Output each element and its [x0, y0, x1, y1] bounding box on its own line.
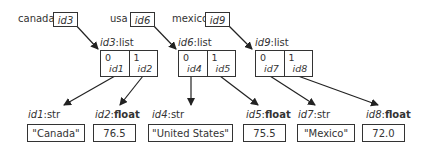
list-box-id6: 0 id4 1 id5 — [178, 50, 236, 77]
object-type: list — [119, 37, 134, 48]
cell-ref: id5 — [216, 63, 231, 74]
object-id: id4 — [152, 109, 168, 120]
arrow-id3-0-to-id1 — [64, 76, 115, 105]
variable-ref-box-canada: id3 — [53, 12, 78, 27]
variable-name-mexico: mexico — [172, 13, 208, 24]
object-id: id1 — [28, 109, 44, 120]
list-box-id9: 0 id7 1 id8 — [255, 50, 313, 77]
value-label-id1: id1:str — [28, 109, 60, 120]
object-id: id9 — [255, 37, 271, 48]
object-id: id5 — [246, 109, 262, 120]
object-type: str — [171, 109, 184, 120]
object-id: id3 — [100, 37, 116, 48]
value-box-id7: "Mexico" — [297, 124, 355, 142]
cell-ref: id1 — [109, 63, 124, 74]
value-label-id7: id7:str — [298, 109, 330, 120]
object-id: id7 — [298, 109, 314, 120]
value-label-id4: id4:str — [152, 109, 184, 120]
value-box-id2: 76.5 — [93, 124, 136, 142]
arrow-id9-1-to-id8 — [298, 76, 378, 105]
cell-ref: id2 — [138, 63, 153, 74]
arrow-id6-1-to-id5 — [220, 76, 258, 105]
cell-ref: id8 — [293, 63, 308, 74]
object-type: float — [265, 109, 291, 120]
list-label-id6: id6:list — [178, 37, 212, 48]
value-box-id5: 75.5 — [243, 124, 286, 142]
object-id: id8 — [366, 109, 382, 120]
cell-index: 0 — [260, 52, 266, 63]
value-label-id8: id8:float — [366, 109, 411, 120]
value-box-id8: 72.0 — [362, 124, 405, 142]
list-box-id3: 0 id1 1 id2 — [100, 50, 158, 77]
cell-index: 1 — [212, 52, 218, 63]
list-label-id9: id9:list — [255, 37, 289, 48]
object-type: list — [197, 37, 212, 48]
object-type: float — [114, 109, 140, 120]
object-id: id2 — [95, 109, 111, 120]
variable-name-canada: canada — [18, 13, 55, 24]
list-cell: 1 id5 — [207, 51, 236, 76]
variable-ref-box-usa: id6 — [130, 12, 155, 27]
value-label-id5: id5:float — [246, 109, 291, 120]
cell-index: 1 — [134, 52, 140, 63]
cell-index: 0 — [183, 52, 189, 63]
object-id: id6 — [178, 37, 194, 48]
object-type: str — [47, 109, 60, 120]
variable-ref-box-mexico: id9 — [205, 12, 230, 27]
list-cell: 0 id4 — [179, 51, 207, 76]
object-type: str — [317, 109, 330, 120]
cell-index: 0 — [105, 52, 111, 63]
list-cell: 1 id2 — [129, 51, 158, 76]
list-cell: 0 id7 — [256, 51, 284, 76]
value-box-id1: "Canada" — [27, 124, 85, 142]
arrow-id3-1-to-id2 — [120, 76, 143, 105]
list-cell: 0 id1 — [101, 51, 129, 76]
value-box-id4: "United States" — [148, 124, 233, 142]
cell-index: 1 — [289, 52, 295, 63]
variable-name-usa: usa — [110, 13, 128, 24]
value-label-id2: id2:float — [95, 109, 140, 120]
cell-ref: id7 — [264, 63, 279, 74]
list-label-id3: id3:list — [100, 37, 134, 48]
object-type: list — [274, 37, 289, 48]
list-cell: 1 id8 — [284, 51, 313, 76]
object-type: float — [385, 109, 411, 120]
cell-ref: id4 — [187, 63, 202, 74]
